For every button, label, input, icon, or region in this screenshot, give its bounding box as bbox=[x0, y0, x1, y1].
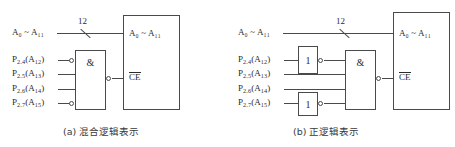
input-wire-a-2 bbox=[58, 74, 76, 75]
and-output-wire-a bbox=[112, 78, 123, 79]
memory-chip-a: A₀ ~ A₁₁ CE bbox=[123, 15, 180, 110]
input-label-b-1: P2.4(A12) bbox=[238, 55, 270, 64]
inverter-b-1: 1 bbox=[298, 46, 318, 74]
and-gate-a: & bbox=[75, 50, 106, 110]
input-bubble-a-4 bbox=[69, 101, 74, 106]
bus-label-a: A₀ ~ A₁₁ bbox=[12, 28, 44, 37]
chip-enable-label-a: CE bbox=[129, 72, 141, 82]
bus-wire-a bbox=[57, 33, 123, 34]
input-label-b-3: P2.6(A14) bbox=[238, 84, 270, 93]
inverter-b-4: 1 bbox=[298, 92, 318, 116]
chip-addr-label-b: A₀ ~ A₁₁ bbox=[399, 29, 431, 38]
input-label-a-2: P2.5(A13) bbox=[12, 69, 44, 78]
inverter-output-bubble-b-4 bbox=[318, 101, 323, 106]
and-output-bubble-a bbox=[106, 76, 111, 81]
inverter-out-wire-b-4 bbox=[324, 103, 346, 104]
logic-diagram-figure: A₀ ~ A₁₁ 12 & P2.4(A12) P2.5(A13) P2.6(A… bbox=[0, 0, 455, 147]
memory-chip-b: A₀ ~ A₁₁ CE bbox=[393, 12, 450, 110]
and-output-bubble-b bbox=[376, 76, 381, 81]
and-gate-symbol-b: & bbox=[346, 57, 375, 68]
input-label-a-3: P2.6(A14) bbox=[12, 84, 44, 93]
input-wire-b-2 bbox=[284, 74, 346, 75]
inverter-output-bubble-b-1 bbox=[318, 58, 323, 63]
chip-addr-label-a: A₀ ~ A₁₁ bbox=[129, 29, 161, 38]
bus-width-label-a: 12 bbox=[78, 17, 87, 26]
input-label-b-2: P2.5(A13) bbox=[238, 69, 270, 78]
panel-positive-logic: A₀ ~ A₁₁ 12 & P2.4(A12) 1 P2.5(A13) P2.6… bbox=[228, 0, 455, 147]
and-gate-symbol-a: & bbox=[76, 57, 105, 68]
input-wire-b-1 bbox=[284, 60, 298, 61]
input-wire-b-3 bbox=[284, 89, 346, 90]
bus-label-b: A₀ ~ A₁₁ bbox=[238, 28, 270, 37]
input-bubble-a-1 bbox=[69, 58, 74, 63]
caption-a: (a) 混合逻辑表示 bbox=[63, 124, 139, 138]
input-label-a-4: P2.7(A15) bbox=[12, 98, 44, 107]
bus-wire-b bbox=[283, 33, 393, 34]
inverter-symbol-b-4: 1 bbox=[299, 99, 317, 110]
bus-width-label-b: 12 bbox=[336, 17, 345, 26]
chip-enable-label-b: CE bbox=[399, 72, 411, 82]
panel-mixed-logic: A₀ ~ A₁₁ 12 & P2.4(A12) P2.5(A13) P2.6(A… bbox=[0, 0, 227, 147]
input-label-b-4: P2.7(A15) bbox=[238, 98, 270, 107]
input-wire-a-3 bbox=[58, 89, 76, 90]
inverter-out-wire-b-1 bbox=[324, 60, 346, 61]
input-label-a-1: P2.4(A12) bbox=[12, 55, 44, 64]
inverter-symbol-b-1: 1 bbox=[299, 55, 317, 66]
and-output-wire-b bbox=[382, 78, 393, 79]
caption-b: (b) 正逻辑表示 bbox=[293, 124, 359, 138]
and-gate-b: & bbox=[345, 50, 376, 110]
input-wire-b-4 bbox=[284, 103, 298, 104]
